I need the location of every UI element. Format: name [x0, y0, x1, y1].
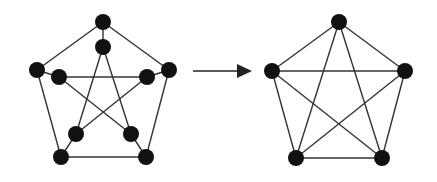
graph-node [95, 14, 111, 30]
graph-edge [296, 22, 339, 158]
graph-edge [103, 47, 131, 134]
graph-edge [296, 71, 405, 158]
graph-node [139, 69, 155, 85]
graph-edge [103, 22, 169, 70]
graph-edge [382, 71, 405, 158]
graph-edge [339, 22, 405, 71]
graph-node [374, 150, 390, 166]
graph-node [53, 149, 69, 165]
graph-edge [37, 22, 103, 70]
graph-node [331, 14, 347, 30]
petersen-graph [29, 14, 177, 165]
complete-graph-k5 [264, 14, 413, 166]
k5-edges [272, 22, 405, 158]
graph-node [161, 62, 177, 78]
graph-edge [272, 22, 339, 71]
transformation-arrow [193, 64, 252, 78]
graph-node [264, 63, 280, 79]
graph-node [397, 63, 413, 79]
graph-node [288, 150, 304, 166]
graph-node [123, 126, 139, 142]
graph-edge [59, 77, 131, 134]
graph-edge [76, 47, 103, 134]
graph-node [51, 69, 67, 85]
graph-edge [272, 71, 382, 158]
graph-node [29, 62, 45, 78]
graph-node [68, 126, 84, 142]
graph-node [138, 149, 154, 165]
graph-edge [272, 71, 296, 158]
graph-edge [76, 77, 147, 134]
graph-diagram [0, 0, 437, 182]
k5-nodes [264, 14, 413, 166]
arrow-head-icon [237, 64, 252, 78]
graph-edge [339, 22, 382, 158]
graph-node [95, 39, 111, 55]
